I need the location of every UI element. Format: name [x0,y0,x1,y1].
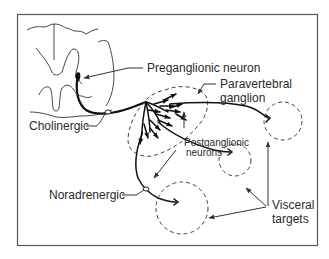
label-ganglion: ganglion [220,91,265,105]
label-preganglionic-neuron: Preganglionic neuron [147,61,260,75]
paravertebral-pointer [198,84,216,94]
label-cholinergic: Cholinergic [29,119,89,133]
spinal-cord-cross-section [27,24,114,117]
visceral-target-lower [156,182,208,234]
label-targets: targets [272,212,309,226]
label-visceral: Visceral [272,198,314,212]
visceral-pointer-middle [246,188,266,206]
label-noradrenergic: Noradrenergic [49,188,125,202]
visceral-target-middle [219,144,251,176]
preganglionic-neuron [75,72,146,114]
label-paravertebral: Paravertebral [220,77,292,91]
label-neurons: neurons [186,147,222,158]
visceral-pointer-lower [209,207,266,218]
visceral-target-upper [264,102,302,140]
autonomic-pathway-diagram: Preganglionic neuron Paravertebral gangl… [0,0,329,259]
noradrenergic-pointer [122,190,144,195]
